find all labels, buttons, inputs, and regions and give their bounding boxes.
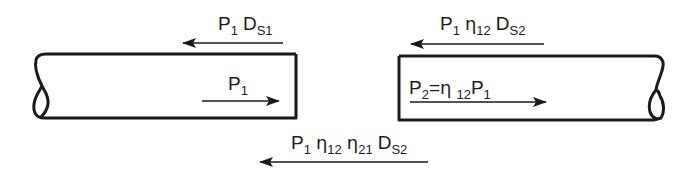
- left-pipe: [34, 54, 296, 118]
- symbol-p: P: [228, 73, 241, 94]
- symbol-eta: η: [347, 132, 358, 153]
- symbol-d: D: [378, 132, 392, 153]
- label-top-right: P1η12DS2: [440, 14, 525, 33]
- label-pipe2-flow: P2=η12P1: [409, 78, 491, 97]
- left-pipe-outline: [34, 54, 296, 118]
- subscript: 1: [241, 83, 248, 98]
- label-bottom: P1η12η21DS2: [291, 133, 407, 152]
- symbol-d: D: [496, 13, 510, 34]
- subscript: S2: [510, 23, 526, 38]
- symbol-eta: η: [440, 77, 451, 98]
- subscript: 12: [476, 23, 490, 38]
- label-pipe1-flow: P1: [228, 74, 248, 93]
- symbol-eta: η: [465, 13, 476, 34]
- subscript: 1: [304, 142, 311, 157]
- symbol-p1: P: [471, 77, 484, 98]
- label-top-left: P1DS1: [218, 14, 273, 33]
- equals-sign: =: [429, 77, 440, 98]
- subscript: 1: [453, 23, 460, 38]
- symbol-d: D: [243, 13, 257, 34]
- subscript: 1: [484, 87, 491, 102]
- subscript: 12: [327, 142, 341, 157]
- symbol-p: P: [440, 13, 453, 34]
- subscript: 12: [456, 87, 470, 102]
- symbol-p: P: [291, 132, 304, 153]
- subscript: S2: [391, 142, 407, 157]
- subscript: 21: [358, 142, 372, 157]
- diagram-canvas: [0, 0, 688, 184]
- symbol-p2: P: [409, 77, 422, 98]
- subscript: 2: [422, 87, 429, 102]
- symbol-eta: η: [316, 132, 327, 153]
- symbol-p: P: [218, 13, 231, 34]
- subscript: 1: [231, 23, 238, 38]
- subscript: S1: [257, 23, 273, 38]
